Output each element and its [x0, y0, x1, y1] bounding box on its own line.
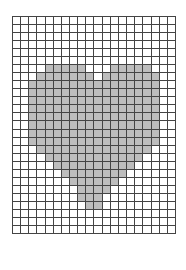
grid-cell-filled: [86, 138, 94, 146]
grid-cell-filled: [103, 130, 111, 138]
grid-cell: [168, 218, 176, 226]
grid-cell-filled: [29, 89, 37, 97]
grid-cell: [37, 33, 45, 41]
grid-cell-filled: [152, 113, 160, 121]
grid-cell: [62, 41, 70, 49]
grid-cell: [29, 154, 37, 162]
grid-cell: [70, 33, 78, 41]
grid-cell: [13, 33, 21, 41]
grid-cell-filled: [127, 130, 135, 138]
grid-cell: [54, 49, 62, 57]
grid-cell: [127, 194, 135, 202]
grid-cell: [21, 186, 29, 194]
grid-cell: [111, 186, 119, 194]
grid-cell-filled: [94, 81, 102, 89]
grid-cell-filled: [111, 178, 119, 186]
grid-cell: [13, 73, 21, 81]
grid-cell-filled: [54, 81, 62, 89]
grid-cell: [152, 170, 160, 178]
grid-cell: [29, 33, 37, 41]
grid-cell-filled: [127, 121, 135, 129]
grid-cell: [160, 41, 168, 49]
grid-cell: [54, 17, 62, 25]
grid-cell-filled: [70, 89, 78, 97]
grid-cell: [160, 138, 168, 146]
grid-cell: [29, 25, 37, 33]
grid-cell: [152, 226, 160, 234]
grid-cell: [21, 73, 29, 81]
grid-cell-filled: [78, 154, 86, 162]
grid-cell-filled: [127, 138, 135, 146]
grid-cell-filled: [94, 186, 102, 194]
grid-cell: [46, 25, 54, 33]
grid-cell: [168, 202, 176, 210]
grid-cell-filled: [62, 121, 70, 129]
grid-cell: [29, 170, 37, 178]
grid-cell-filled: [103, 138, 111, 146]
grid-cell: [94, 41, 102, 49]
grid-cell: [135, 25, 143, 33]
grid-cell-filled: [86, 202, 94, 210]
grid-cell: [62, 186, 70, 194]
grid-cell-filled: [94, 113, 102, 121]
grid-cell: [29, 162, 37, 170]
grid-cell: [62, 194, 70, 202]
grid-cell-filled: [86, 178, 94, 186]
grid-cell: [62, 25, 70, 33]
grid-cell: [37, 186, 45, 194]
grid-cell: [13, 202, 21, 210]
grid-cell: [86, 41, 94, 49]
grid-cell-filled: [54, 89, 62, 97]
grid-cell-filled: [135, 97, 143, 105]
grid-cell: [160, 73, 168, 81]
grid-cell-filled: [62, 89, 70, 97]
grid-cell: [70, 194, 78, 202]
grid-cell-filled: [54, 97, 62, 105]
grid-cell: [13, 210, 21, 218]
grid-cell: [143, 33, 151, 41]
grid-cell: [21, 81, 29, 89]
grid-cell: [135, 57, 143, 65]
grid-cell-filled: [103, 73, 111, 81]
grid-cell: [21, 226, 29, 234]
grid-cell: [127, 25, 135, 33]
grid-cell: [168, 154, 176, 162]
grid-cell-filled: [62, 113, 70, 121]
grid-cell: [37, 162, 45, 170]
grid-cell: [46, 49, 54, 57]
grid-cell: [86, 226, 94, 234]
grid-cell: [168, 121, 176, 129]
grid-cell: [103, 49, 111, 57]
grid-cell: [160, 105, 168, 113]
grid-cell-filled: [62, 138, 70, 146]
grid-cell: [37, 218, 45, 226]
grid-cell: [160, 154, 168, 162]
grid-cell-filled: [135, 154, 143, 162]
grid-cell-filled: [135, 146, 143, 154]
grid-cell: [21, 97, 29, 105]
grid-cell: [29, 146, 37, 154]
grid-cell-filled: [86, 105, 94, 113]
grid-cell-filled: [46, 89, 54, 97]
grid-cell: [29, 65, 37, 73]
grid-cell-filled: [37, 105, 45, 113]
grid-cell-filled: [143, 138, 151, 146]
grid-cell-filled: [127, 65, 135, 73]
grid-cell: [143, 41, 151, 49]
grid-cell-filled: [70, 113, 78, 121]
grid-cell-filled: [78, 162, 86, 170]
grid-cell: [13, 226, 21, 234]
grid-cell-filled: [78, 178, 86, 186]
grid-cell-filled: [46, 121, 54, 129]
grid-cell: [152, 202, 160, 210]
grid-cell-filled: [54, 121, 62, 129]
grid-cell: [111, 218, 119, 226]
grid-cell: [160, 194, 168, 202]
grid-cell-filled: [111, 81, 119, 89]
grid-cell: [13, 57, 21, 65]
grid-cell-filled: [94, 146, 102, 154]
grid-cell: [168, 49, 176, 57]
grid-cell-filled: [127, 154, 135, 162]
grid-cell: [152, 17, 160, 25]
grid-cell: [13, 81, 21, 89]
